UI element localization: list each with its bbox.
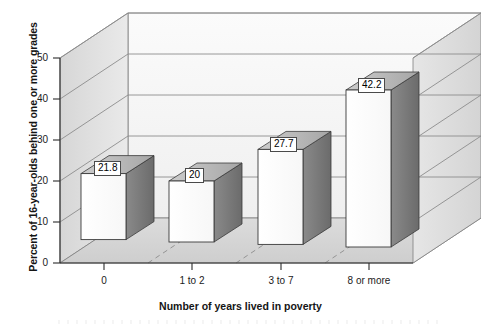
bar-side-face <box>391 72 419 247</box>
data-label-0: 21.8 <box>94 161 121 176</box>
bar-front-face <box>81 174 126 240</box>
data-label-2: 27.7 <box>270 137 297 152</box>
bar-3[interactable] <box>346 72 419 247</box>
bar-1[interactable] <box>169 163 242 242</box>
data-label-1: 20 <box>185 168 204 183</box>
bar-front-face <box>346 90 391 247</box>
bar-front-face <box>169 181 214 242</box>
x-axis <box>60 263 413 270</box>
x-axis-title: Number of years lived in poverty <box>0 300 481 312</box>
x-tick-1: 1 to 2 <box>157 275 227 286</box>
x-tick-0: 0 <box>69 275 139 286</box>
scan-artifact <box>58 320 438 324</box>
x-tick-3: 8 or more <box>334 275 404 286</box>
bar-side-face <box>303 131 331 244</box>
bar-front-face <box>258 149 303 244</box>
x-tick-2: 3 to 7 <box>246 275 316 286</box>
y-axis <box>53 58 60 263</box>
data-label-3: 42.2 <box>358 78 385 93</box>
y-axis-title: Percent of 16-year-olds behind one or mo… <box>27 17 39 277</box>
chart-figure: 50 40 30 20 10 0 0 1 to 2 3 to 7 8 or mo… <box>0 0 481 330</box>
